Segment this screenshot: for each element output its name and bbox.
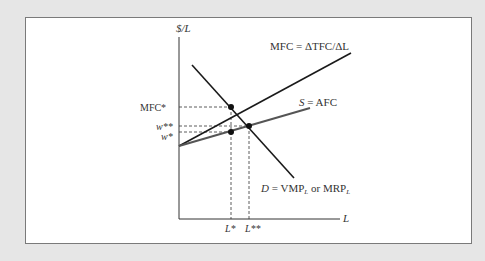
demand-curve-label: D = VMPL or MRPL: [260, 182, 350, 196]
w-double-star-point: [246, 123, 252, 129]
l-star-tick-label: L*: [224, 223, 236, 234]
l-double-star-tick-label: L**: [244, 223, 261, 234]
supply-curve-label: S = AFC: [299, 96, 337, 108]
demand-curve: [192, 65, 294, 178]
mfc-star-tick-label: MFC*: [140, 102, 166, 113]
supply-curve: [179, 108, 310, 146]
w-star-point: [228, 129, 234, 135]
monopsony-diagram: $/L L MFC = ΔTFC/ΔL S = AFC D = VMPL or …: [0, 0, 485, 261]
w-star-tick-label: w*: [161, 131, 173, 142]
mfc-star-point: [228, 104, 234, 110]
mfc-curve-label: MFC = ΔTFC/ΔL: [270, 40, 349, 52]
x-axis-label: L: [342, 212, 349, 224]
y-axis-label: $/L: [176, 22, 191, 34]
guide-lines: [179, 107, 249, 219]
